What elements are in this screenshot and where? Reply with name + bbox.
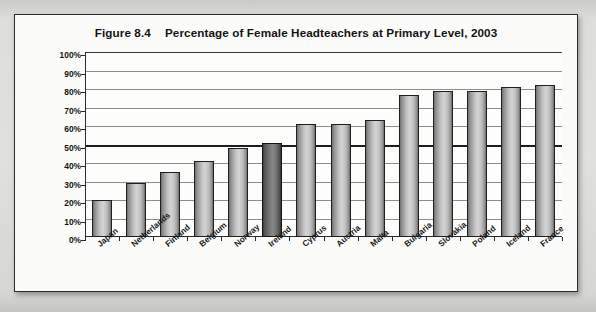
bar-slot	[221, 52, 255, 237]
bar-slot	[255, 52, 289, 237]
bar-norway[interactable]	[228, 148, 248, 237]
y-axis-label-10: 10%	[37, 217, 81, 227]
y-axis-label-100: 100%	[37, 50, 81, 60]
x-axis-tick	[562, 237, 563, 241]
bar-slot	[85, 52, 119, 237]
bar-slot	[528, 52, 562, 237]
bar-slot	[119, 52, 153, 237]
bar-slot	[426, 52, 460, 237]
bar-iceland[interactable]	[501, 87, 521, 237]
bar-cyprus[interactable]	[296, 124, 316, 237]
y-axis: 100%90%80%70%60%50%40%30%20%10%0%	[37, 52, 81, 237]
bar-slot	[187, 52, 221, 237]
bar-poland[interactable]	[467, 91, 487, 237]
bar-series	[85, 52, 562, 237]
y-axis-label-40: 40%	[37, 161, 81, 171]
bar-malta[interactable]	[365, 120, 385, 237]
figure-title: Figure 8.4Percentage of Female Headteach…	[15, 26, 577, 39]
y-axis-label-0: 0%	[37, 235, 81, 245]
bar-slovakia[interactable]	[433, 91, 453, 237]
bar-france[interactable]	[535, 85, 555, 237]
bar-slot	[289, 52, 323, 237]
figure-number: Figure 8.4	[95, 26, 151, 39]
y-axis-label-60: 60%	[37, 124, 81, 134]
y-axis-label-80: 80%	[37, 87, 81, 97]
bar-slot	[358, 52, 392, 237]
bar-slot	[324, 52, 358, 237]
figure-card: Figure 8.4Percentage of Female Headteach…	[14, 14, 578, 292]
bar-slot	[392, 52, 426, 237]
y-axis-label-70: 70%	[37, 106, 81, 116]
bar-bulgaria[interactable]	[399, 95, 419, 237]
bar-ireland[interactable]	[262, 143, 282, 237]
bar-slot	[494, 52, 528, 237]
bar-slot	[460, 52, 494, 237]
y-axis-label-20: 20%	[37, 198, 81, 208]
y-axis-label-50: 50%	[37, 143, 81, 153]
bar-belgium[interactable]	[194, 161, 214, 237]
y-axis-label-30: 30%	[37, 180, 81, 190]
x-axis-labels: JapanNetherlandsFinlandBelgiumNorwayIrel…	[85, 241, 562, 283]
figure-title-text: Percentage of Female Headteachers at Pri…	[165, 26, 497, 39]
bar-slot	[153, 52, 187, 237]
y-axis-label-90: 90%	[37, 69, 81, 79]
bar-chart: 100%90%80%70%60%50%40%30%20%10%0% JapanN…	[37, 49, 565, 281]
bar-austria[interactable]	[331, 124, 351, 237]
